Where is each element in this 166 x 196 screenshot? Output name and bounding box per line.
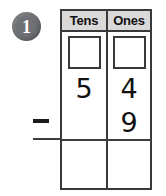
answer-cell-ones[interactable] [106, 141, 150, 188]
place-value-table: Tens Ones 5 4 [60, 9, 152, 190]
answer-cell-tens[interactable] [62, 141, 106, 188]
minuend-cell-tens: 5 [62, 73, 106, 104]
problem-number-badge: 1 [12, 12, 41, 41]
regrouping-cell-tens [62, 32, 106, 73]
regrouping-box-ones[interactable] [113, 36, 146, 69]
subtrahend-row: 9 [62, 104, 150, 139]
regrouping-cell-ones [106, 32, 150, 73]
subtrahend-digit-ones: 9 [120, 109, 137, 136]
regrouping-row [62, 32, 150, 73]
column-header-tens: Tens [62, 11, 106, 30]
subtrahend-cell-tens [62, 104, 106, 139]
minuend-row: 5 4 [62, 73, 150, 104]
column-header-tens-label: Tens [70, 14, 99, 27]
table-header-row: Tens Ones [62, 11, 150, 32]
regrouping-box-tens[interactable] [68, 36, 101, 69]
minuend-cell-ones: 4 [106, 73, 150, 104]
column-header-ones: Ones [106, 11, 150, 30]
worksheet-problem: 1 Tens Ones 5 4 [0, 0, 166, 196]
minus-operator-icon [33, 119, 49, 123]
minuend-digit-tens: 5 [75, 75, 92, 102]
minuend-digit-ones: 4 [120, 75, 137, 102]
answer-row [62, 141, 150, 188]
problem-number-label: 1 [12, 12, 41, 41]
subtrahend-cell-ones: 9 [106, 104, 150, 139]
column-header-ones-label: Ones [113, 14, 145, 27]
